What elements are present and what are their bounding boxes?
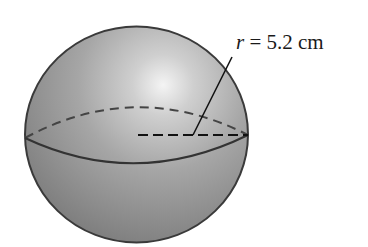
- radius-variable: r: [236, 30, 244, 54]
- radius-equals: =: [244, 30, 266, 54]
- radius-value: 5.2: [267, 30, 293, 54]
- radius-label: r = 5.2 cm: [236, 30, 324, 55]
- radius-unit: cm: [293, 30, 324, 54]
- sphere-figure: r = 5.2 cm: [0, 0, 368, 247]
